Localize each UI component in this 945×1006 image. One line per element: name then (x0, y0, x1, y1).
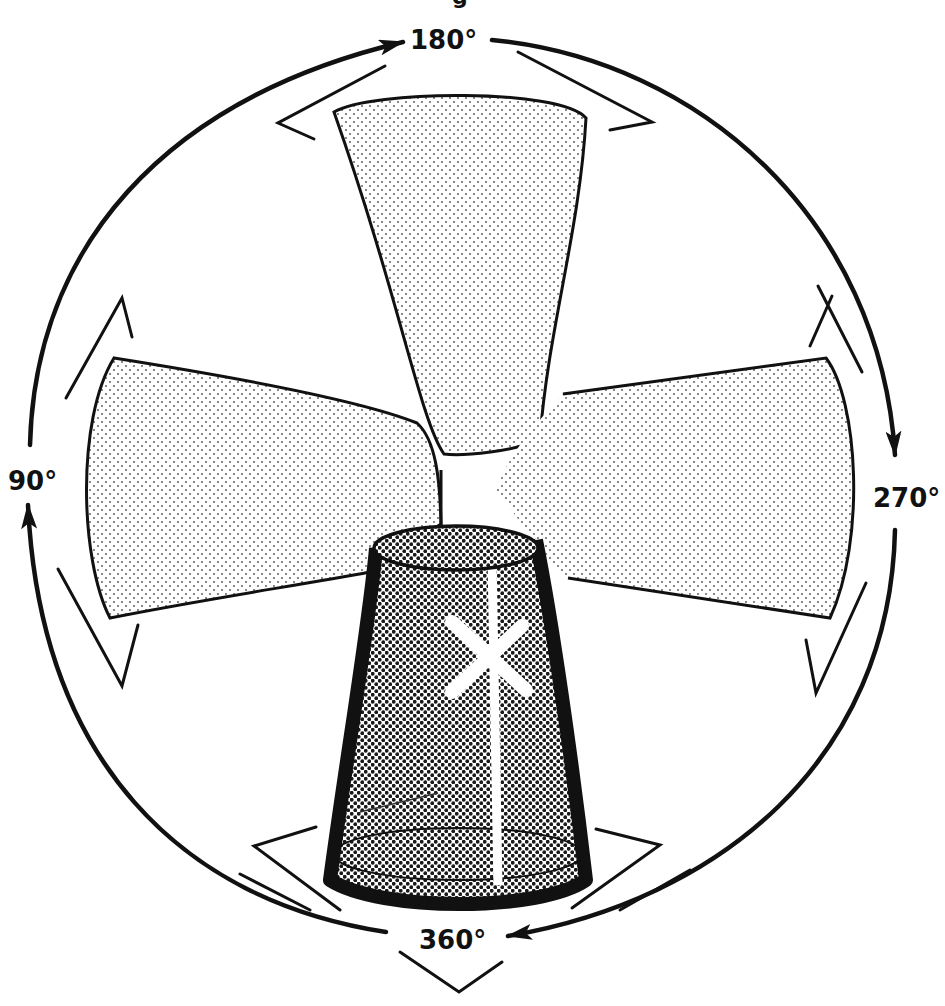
angle-label-360: 360° (419, 927, 486, 953)
angle-label-270: 270° (873, 485, 940, 511)
angle-label-90: 90° (8, 468, 57, 494)
chevron-bottom-center-icon (400, 952, 502, 992)
title-fragment: g (452, 0, 468, 8)
lobe-bottom-highlight-stripe (492, 560, 498, 885)
rotating-lobe-diagram (0, 0, 945, 1006)
lobe-bottom-360 (330, 526, 586, 904)
lobe-top-180 (334, 95, 586, 454)
angle-label-180: 180° (410, 27, 477, 53)
lobe-bottom-top-cap (374, 526, 538, 570)
